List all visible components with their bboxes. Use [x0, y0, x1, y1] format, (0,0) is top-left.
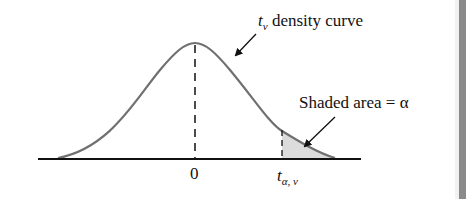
critical-value-label: tα, ν	[277, 167, 298, 184]
curve-label: tν density curve	[258, 12, 363, 29]
curve-label-arrow	[236, 34, 256, 55]
t-distribution-figure: tν density curve Shaded area = α 0 tα, ν	[0, 0, 466, 199]
page-edge-strip	[459, 0, 466, 199]
shaded-label-arrow	[305, 117, 335, 146]
shaded-area-label: Shaded area = α	[299, 94, 409, 111]
zero-tick-label: 0	[190, 165, 199, 182]
